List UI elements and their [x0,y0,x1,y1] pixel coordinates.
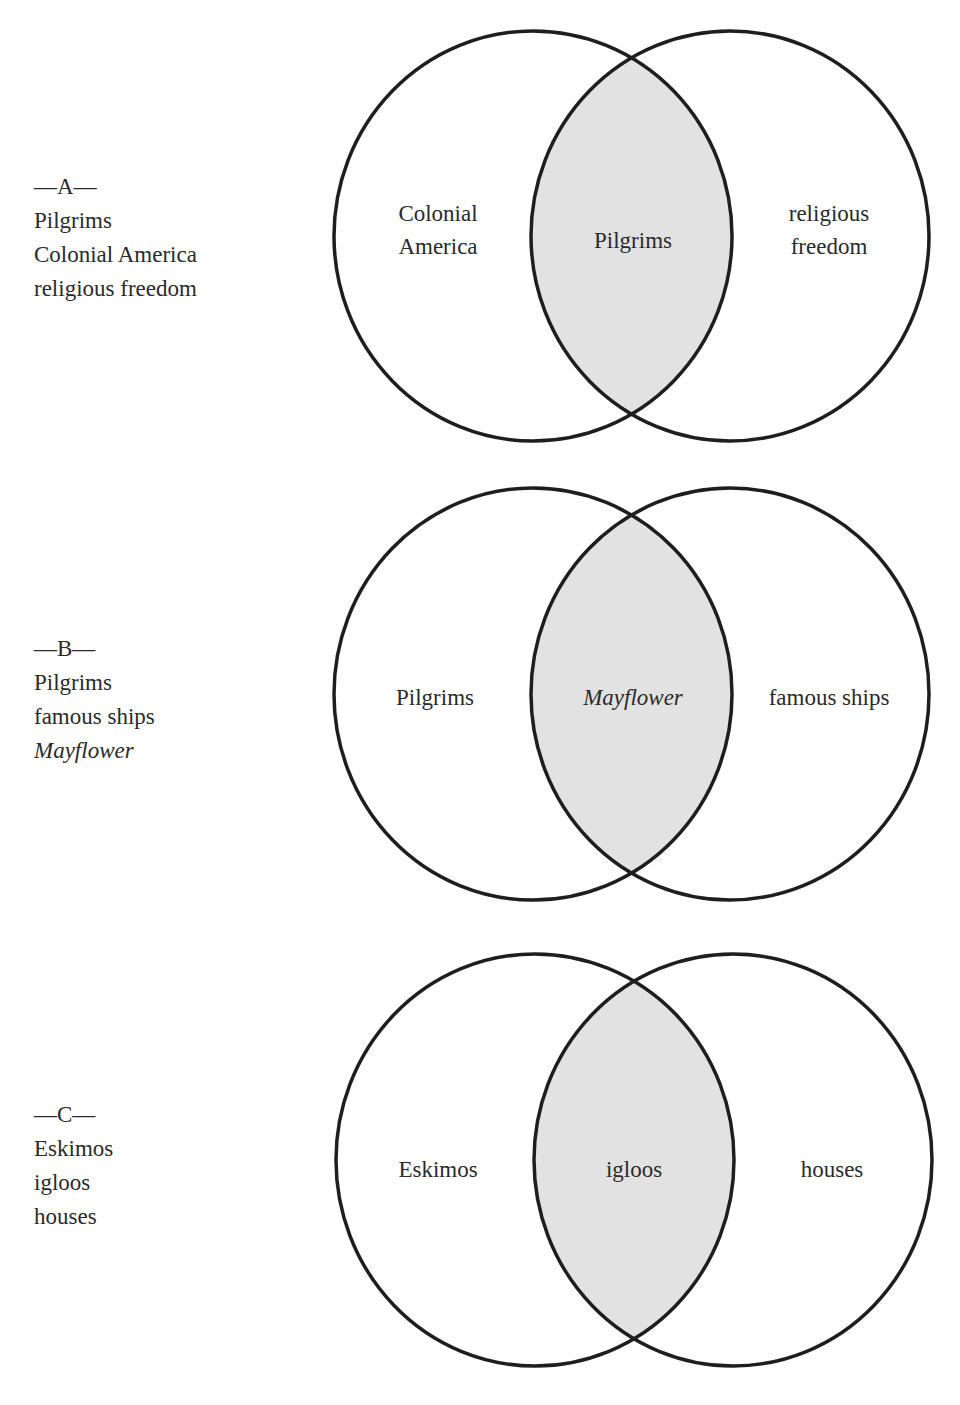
label-line: freedom [789,230,870,263]
left-circle-label: Colonial America [398,197,477,263]
right-circle-label: famous ships [769,681,890,714]
left-circle-label: Pilgrims [396,681,474,714]
right-circle-label: religious freedom [789,197,870,263]
overlap-label: Pilgrims [594,224,672,257]
overlap-label: igloos [606,1153,662,1186]
venn-diagram-a: —A— Pilgrims Colonial America religious … [0,0,960,460]
venn-diagram-b: —B— Pilgrims famous ships Mayflower Pilg… [0,460,960,930]
label-line: religious [789,197,870,230]
label-line: America [398,230,477,263]
overlap-region [531,31,929,441]
left-circle-label: Eskimos [398,1153,477,1186]
right-circle-label: houses [801,1153,864,1186]
label-line: Colonial [398,197,477,230]
venn-diagram-c: —C— Eskimos igloos houses Eskimos igloos… [0,930,960,1405]
overlap-label: Mayflower [583,681,683,714]
